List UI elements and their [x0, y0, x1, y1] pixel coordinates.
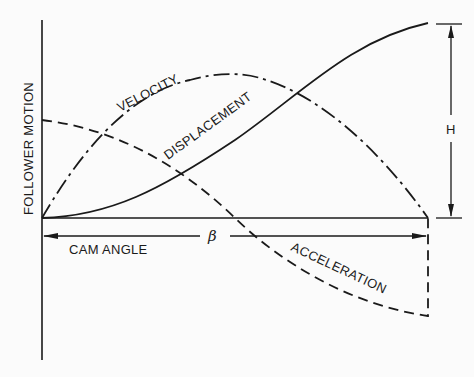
beta-symbol: β	[207, 227, 217, 245]
acceleration-label: ACCELERATION	[289, 239, 389, 296]
y-axis-label: FOLLOWER MOTION	[21, 82, 36, 215]
displacement-label: DISPLACEMENT	[161, 89, 255, 163]
x-axis-label: CAM ANGLE	[69, 242, 148, 257]
h-arrow-up-icon	[448, 25, 454, 38]
velocity-label: VELOCITY	[115, 71, 181, 115]
displacement-curve	[42, 23, 428, 218]
beta-arrow-left-icon	[43, 233, 58, 239]
cam-motion-diagram: H β FOLLOWER MOTION CAM ANGLE VELOCITY D…	[0, 0, 474, 377]
rise-label-h: H	[446, 122, 456, 137]
beta-arrow-right-icon	[412, 233, 427, 239]
h-arrow-down-icon	[448, 204, 454, 217]
